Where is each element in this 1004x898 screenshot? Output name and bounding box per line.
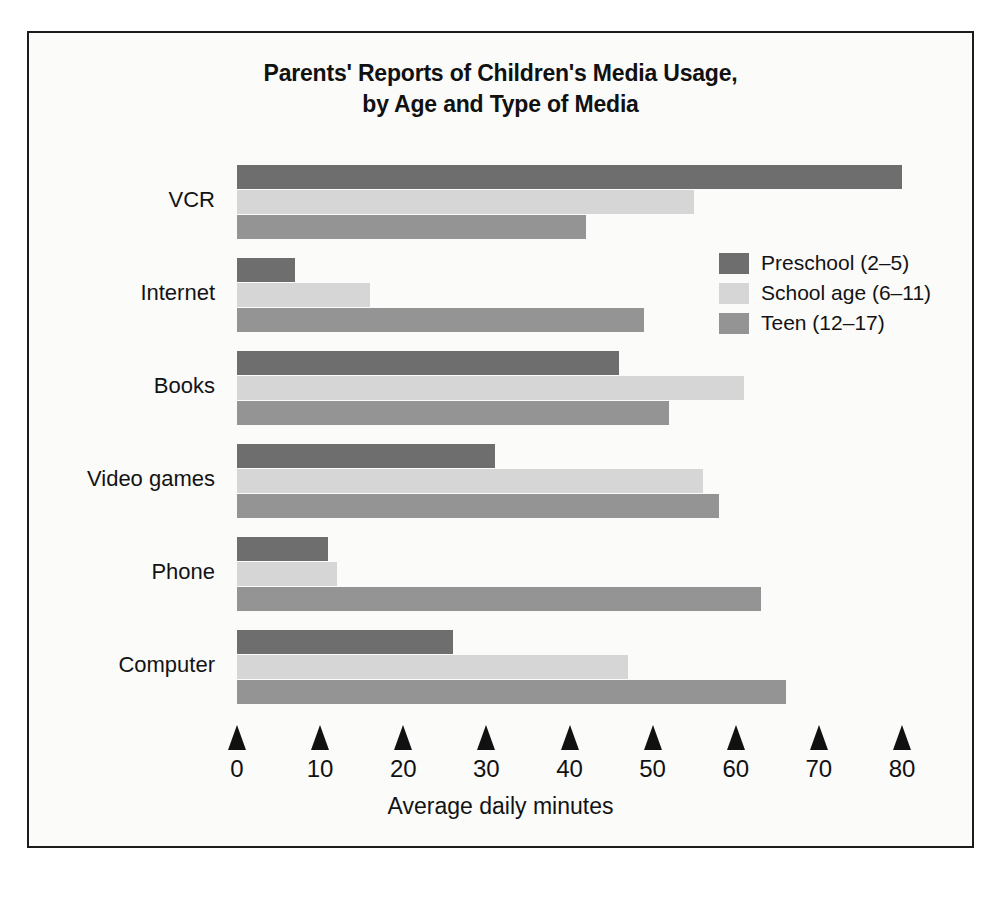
axis-tick-label: 70 bbox=[806, 755, 833, 783]
bar bbox=[237, 537, 328, 561]
bar bbox=[237, 376, 744, 400]
chart-title-line-2: by Age and Type of Media bbox=[29, 89, 972, 120]
x-axis: 01020304050607080 bbox=[237, 725, 902, 795]
category-label-video-games: Video games bbox=[87, 466, 215, 492]
category-label-books: Books bbox=[154, 373, 215, 399]
bar bbox=[237, 494, 719, 518]
axis-tick-marker bbox=[727, 725, 745, 750]
legend-item: School age (6–11) bbox=[719, 278, 969, 308]
bar bbox=[237, 444, 495, 468]
legend-label: School age (6–11) bbox=[761, 281, 931, 305]
legend-item: Teen (12–17) bbox=[719, 308, 969, 338]
category-label-phone: Phone bbox=[151, 559, 215, 585]
bar-group: Video games bbox=[237, 444, 902, 518]
legend-swatch-icon bbox=[719, 253, 749, 274]
bar bbox=[237, 401, 669, 425]
bar-group: Books bbox=[237, 351, 902, 425]
legend-swatch-icon bbox=[719, 283, 749, 304]
legend-label: Teen (12–17) bbox=[761, 311, 885, 335]
legend-swatch-icon bbox=[719, 313, 749, 334]
axis-tick-label: 30 bbox=[473, 755, 500, 783]
bar bbox=[237, 655, 628, 679]
x-axis-title: Average daily minutes bbox=[29, 793, 972, 820]
axis-tick-label: 10 bbox=[307, 755, 334, 783]
axis-tick-marker bbox=[477, 725, 495, 750]
bar bbox=[237, 351, 619, 375]
category-label-computer: Computer bbox=[118, 652, 215, 678]
axis-tick-marker bbox=[394, 725, 412, 750]
category-label-vcr: VCR bbox=[169, 187, 215, 213]
bar bbox=[237, 630, 453, 654]
bar-group: VCR bbox=[237, 165, 902, 239]
bar bbox=[237, 258, 295, 282]
axis-tick-label: 80 bbox=[889, 755, 916, 783]
bar bbox=[237, 215, 586, 239]
chart-legend: Preschool (2–5)School age (6–11)Teen (12… bbox=[719, 248, 969, 338]
legend-item: Preschool (2–5) bbox=[719, 248, 969, 278]
axis-tick-label: 60 bbox=[722, 755, 749, 783]
chart-page: Parents' Reports of Children's Media Usa… bbox=[0, 0, 1004, 898]
plot-area: VCRInternetBooksVideo gamesPhoneComputer bbox=[237, 165, 902, 710]
axis-tick-label: 0 bbox=[230, 755, 243, 783]
axis-tick-label: 40 bbox=[556, 755, 583, 783]
legend-label: Preschool (2–5) bbox=[761, 251, 909, 275]
bar bbox=[237, 190, 694, 214]
bar bbox=[237, 562, 337, 586]
chart-title-line-1: Parents' Reports of Children's Media Usa… bbox=[29, 58, 972, 89]
category-label-internet: Internet bbox=[140, 280, 215, 306]
figure-frame: Parents' Reports of Children's Media Usa… bbox=[27, 31, 974, 848]
axis-tick-marker bbox=[810, 725, 828, 750]
axis-tick-label: 20 bbox=[390, 755, 417, 783]
axis-tick-marker bbox=[311, 725, 329, 750]
axis-tick-marker bbox=[644, 725, 662, 750]
bar bbox=[237, 165, 902, 189]
axis-tick-marker bbox=[893, 725, 911, 750]
bar bbox=[237, 469, 703, 493]
bar bbox=[237, 283, 370, 307]
bar-group: Phone bbox=[237, 537, 902, 611]
axis-tick-marker bbox=[561, 725, 579, 750]
chart-title: Parents' Reports of Children's Media Usa… bbox=[29, 58, 972, 120]
bar bbox=[237, 308, 644, 332]
bar bbox=[237, 680, 786, 704]
axis-tick-marker bbox=[228, 725, 246, 750]
bar bbox=[237, 587, 761, 611]
axis-tick-label: 50 bbox=[639, 755, 666, 783]
bar-group: Computer bbox=[237, 630, 902, 704]
